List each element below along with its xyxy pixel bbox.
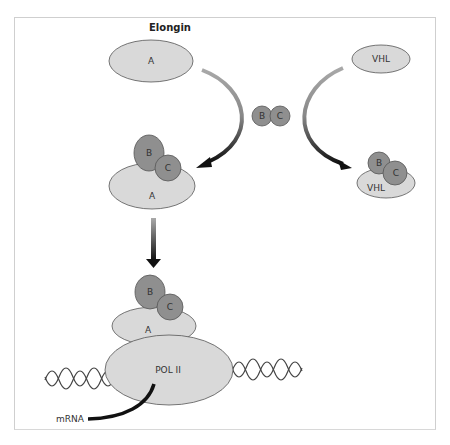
- dna-helix-left: [45, 368, 115, 389]
- svg-text:C: C: [277, 111, 283, 121]
- vhl-protein: VHL: [352, 45, 410, 73]
- svg-text:C: C: [393, 168, 399, 178]
- elongin-abc-complex: B C A: [109, 135, 195, 209]
- svg-text:mRNA: mRNA: [56, 414, 85, 424]
- svg-text:C: C: [167, 302, 173, 312]
- svg-text:B: B: [147, 287, 153, 297]
- svg-text:A: A: [145, 325, 152, 335]
- dna-helix-right: [232, 359, 302, 380]
- svg-text:A: A: [149, 191, 156, 201]
- vhl-bc-complex: B C VHL: [357, 152, 415, 198]
- svg-text:VHL: VHL: [372, 54, 390, 64]
- svg-text:B: B: [146, 148, 152, 158]
- elongin-a-subunit: A: [109, 40, 193, 82]
- svg-text:A: A: [148, 56, 155, 66]
- free-b-c-dimer: B C: [252, 106, 290, 126]
- svg-text:B: B: [259, 111, 265, 121]
- elongin-diagram: Elongin A VHL B C B C A B C: [0, 0, 450, 445]
- down-arrow: [146, 218, 161, 268]
- right-curved-arrow: [304, 68, 352, 170]
- svg-text:VHL: VHL: [367, 183, 385, 193]
- elongin-title: Elongin: [149, 22, 191, 33]
- svg-text:POL II: POL II: [155, 365, 181, 375]
- elongin-pol2-complex: B C A POL II: [105, 275, 233, 405]
- left-curved-arrow: [196, 70, 242, 168]
- svg-text:B: B: [376, 158, 382, 168]
- svg-text:C: C: [165, 163, 171, 173]
